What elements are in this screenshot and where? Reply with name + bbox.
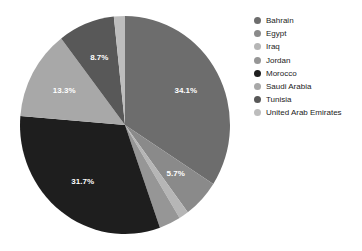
legend-item-label: Egypt xyxy=(266,29,286,38)
pie-slice-label: 31.7% xyxy=(71,177,94,186)
legend-swatch-icon xyxy=(254,43,261,50)
legend-item[interactable]: Jordan xyxy=(254,54,362,67)
legend-swatch-icon xyxy=(254,30,261,37)
legend-item[interactable]: United Arab Emirates xyxy=(254,106,362,119)
legend-item-label: Tunisia xyxy=(266,95,292,104)
pie-slice-label: 34.1% xyxy=(174,86,197,95)
pie-slice-label: 5.7% xyxy=(167,169,185,178)
chart-page: 34.1%5.7%31.7%13.3%8.7% BahrainEgyptIraq… xyxy=(0,0,362,251)
legend-item-label: Bahrain xyxy=(266,16,294,25)
legend-item-label: United Arab Emirates xyxy=(266,108,342,117)
pie-slice-label: 13.3% xyxy=(53,86,76,95)
legend-swatch-icon xyxy=(254,57,261,64)
legend-item-label: Jordan xyxy=(266,56,290,65)
legend-item[interactable]: Bahrain xyxy=(254,14,362,27)
legend-item-label: Saudi Arabia xyxy=(266,82,311,91)
legend-swatch-icon xyxy=(254,83,261,90)
legend-item-label: Morocco xyxy=(266,69,297,78)
legend-item[interactable]: Morocco xyxy=(254,67,362,80)
legend-item[interactable]: Saudi Arabia xyxy=(254,80,362,93)
chart-legend: BahrainEgyptIraqJordanMoroccoSaudi Arabi… xyxy=(254,14,362,120)
legend-swatch-icon xyxy=(254,17,261,24)
legend-swatch-icon xyxy=(254,96,261,103)
pie-chart: 34.1%5.7%31.7%13.3%8.7% xyxy=(16,14,234,236)
legend-item[interactable]: Tunisia xyxy=(254,93,362,106)
legend-swatch-icon xyxy=(254,70,261,77)
pie-chart-svg: 34.1%5.7%31.7%13.3%8.7% xyxy=(16,14,234,236)
legend-item-label: Iraq xyxy=(266,42,280,51)
legend-swatch-icon xyxy=(254,109,261,116)
legend-item[interactable]: Egypt xyxy=(254,27,362,40)
pie-slice-group xyxy=(20,16,230,234)
legend-item[interactable]: Iraq xyxy=(254,40,362,53)
pie-slice-label: 8.7% xyxy=(90,53,108,62)
